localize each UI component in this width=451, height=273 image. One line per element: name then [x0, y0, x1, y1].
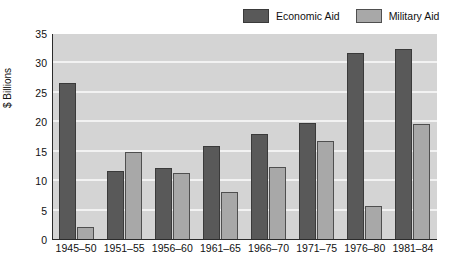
bar-group	[100, 34, 148, 240]
x-tick-label: 1976–80	[341, 243, 389, 254]
bar-economic-aid	[299, 123, 316, 240]
bar-economic-aid	[395, 49, 412, 240]
bar-economic-aid	[347, 53, 364, 240]
y-tick-label: 10	[35, 176, 47, 187]
bar-economic-aid	[155, 168, 172, 240]
bar-group	[341, 34, 389, 240]
bar-military-aid	[365, 206, 382, 240]
plot-frame: 05101520253035	[52, 34, 437, 240]
y-tick-label: 30	[35, 58, 47, 69]
y-tick-label: 5	[41, 205, 47, 216]
bar-chart-figure: Economic Aid Military Aid $ Billions 051…	[0, 0, 451, 273]
bar-group	[52, 34, 100, 240]
bar-military-aid	[173, 173, 190, 240]
bar-group	[389, 34, 437, 240]
x-tick-label: 1971–75	[293, 243, 341, 254]
y-axis-title: $ Billions	[2, 94, 13, 108]
bar-military-aid	[317, 141, 334, 240]
legend-swatch-military-aid	[356, 9, 382, 23]
y-tick-label: 35	[35, 29, 47, 40]
bar-group	[196, 34, 244, 240]
bar-economic-aid	[59, 83, 76, 240]
legend-item-economic-aid: Economic Aid	[243, 9, 340, 23]
x-tick-label: 1956–60	[148, 243, 196, 254]
x-tick-label: 1981–84	[389, 243, 437, 254]
bar-military-aid	[125, 152, 142, 240]
x-tick-label: 1951–55	[100, 243, 148, 254]
y-tick-label: 15	[35, 146, 47, 157]
x-axis-line	[52, 239, 437, 240]
legend-item-military-aid: Military Aid	[356, 9, 440, 23]
y-axis-line	[52, 34, 53, 240]
bar-economic-aid	[203, 146, 220, 240]
y-tick-label: 20	[35, 117, 47, 128]
legend-swatch-economic-aid	[243, 9, 269, 23]
legend-label-military-aid: Military Aid	[389, 11, 440, 22]
y-tick-label: 0	[41, 235, 47, 246]
chart-legend: Economic Aid Military Aid	[243, 9, 439, 23]
plot-area	[52, 34, 437, 240]
bar-military-aid	[413, 124, 430, 240]
x-axis-labels: 1945–501951–551956–601961–651966–701971–…	[52, 243, 437, 254]
y-tick-label: 25	[35, 88, 47, 99]
legend-label-economic-aid: Economic Aid	[276, 11, 340, 22]
bar-group	[245, 34, 293, 240]
bar-group	[148, 34, 196, 240]
x-tick-label: 1961–65	[196, 243, 244, 254]
bar-economic-aid	[107, 171, 124, 240]
x-tick-label: 1945–50	[52, 243, 100, 254]
bar-group	[293, 34, 341, 240]
bar-military-aid	[221, 192, 238, 240]
x-tick-label: 1966–70	[245, 243, 293, 254]
bar-economic-aid	[251, 134, 268, 240]
bar-groups	[52, 34, 437, 240]
bar-military-aid	[269, 167, 286, 240]
